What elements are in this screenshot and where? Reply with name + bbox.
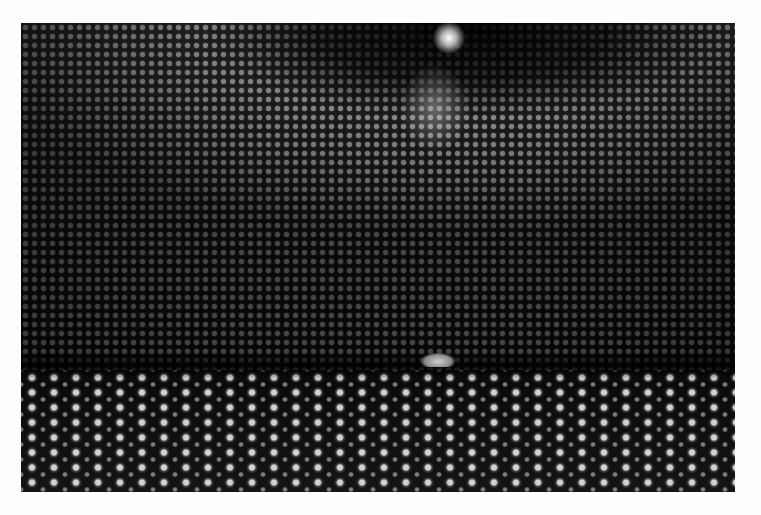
wall-floor-junction bbox=[21, 351, 735, 379]
ceiling-light bbox=[431, 23, 467, 53]
detector-photo bbox=[21, 23, 735, 492]
tank-floor-pmt-array-offset bbox=[21, 370, 735, 492]
raft-with-people bbox=[421, 353, 455, 367]
light-reflection bbox=[400, 63, 470, 153]
wall-shading bbox=[21, 23, 735, 370]
